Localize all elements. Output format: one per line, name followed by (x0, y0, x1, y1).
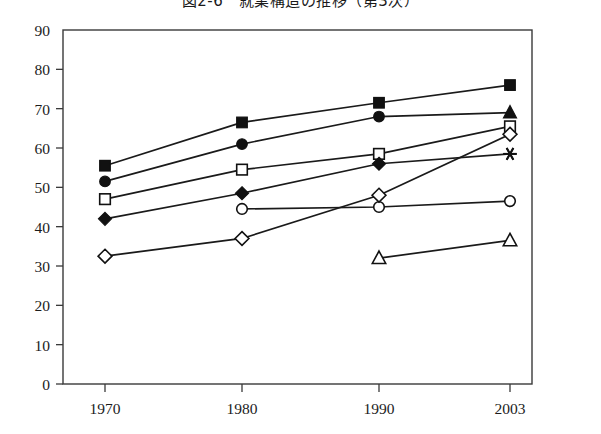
series-filled-circle-triangle (100, 106, 517, 187)
data-point-filled-circle (100, 176, 111, 187)
x-axis-tick-label: 1990 (364, 400, 395, 417)
line-chart-plot: 01020304050607080901970198019902003 (0, 0, 601, 434)
x-axis-tick-label: 1980 (227, 400, 258, 417)
data-point-open-diamond (98, 249, 112, 263)
data-point-filled-square (100, 160, 111, 171)
y-axis-tick-label: 70 (35, 101, 51, 118)
data-point-open-square (237, 164, 248, 175)
series-open-square (100, 121, 516, 204)
data-point-filled-square (374, 97, 385, 108)
data-point-open-diamond (235, 232, 249, 246)
y-axis-tick-label: 60 (35, 140, 51, 157)
data-point-filled-triangle (504, 106, 517, 118)
y-axis-tick-label: 90 (35, 22, 51, 39)
chart-figure: 図2-6 就業構造の推移（第3次） 0102030405060708090197… (0, 0, 601, 434)
data-point-open-triangle (503, 233, 516, 245)
data-point-filled-square (505, 80, 516, 91)
series-line (379, 240, 510, 258)
y-axis-tick-label: 50 (35, 179, 51, 196)
y-axis-tick-label: 20 (35, 297, 51, 314)
y-axis-tick-label: 30 (35, 258, 51, 275)
data-point-asterisk (503, 148, 516, 160)
data-point-open-square (100, 194, 111, 205)
y-axis-tick-label: 10 (35, 337, 51, 354)
data-point-open-diamond (372, 188, 386, 202)
data-point-filled-circle (374, 111, 385, 122)
data-point-open-circle (374, 202, 385, 213)
series-open-triangle (372, 233, 516, 263)
series-line (105, 134, 510, 256)
y-axis-tick-label: 0 (42, 376, 50, 393)
data-point-filled-diamond (236, 187, 249, 200)
x-axis-tick-label: 2003 (495, 400, 526, 417)
data-point-filled-diamond (99, 212, 112, 225)
plot-frame (63, 30, 532, 384)
series-line (105, 85, 510, 166)
data-point-filled-square (237, 117, 248, 128)
data-point-filled-circle (237, 139, 248, 150)
series-filled-square (100, 80, 516, 171)
y-axis-tick-label: 40 (35, 219, 51, 236)
y-axis-tick-label: 80 (35, 61, 51, 78)
x-axis-tick-label: 1970 (90, 400, 121, 417)
data-point-open-circle (505, 196, 516, 207)
data-point-open-circle (237, 204, 248, 215)
